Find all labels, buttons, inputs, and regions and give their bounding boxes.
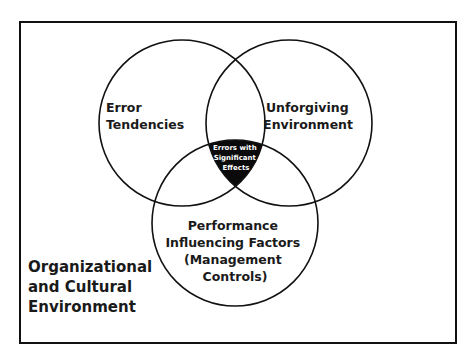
venn-diagram: Error Tendencies Unforgiving Environment… (0, 0, 473, 361)
